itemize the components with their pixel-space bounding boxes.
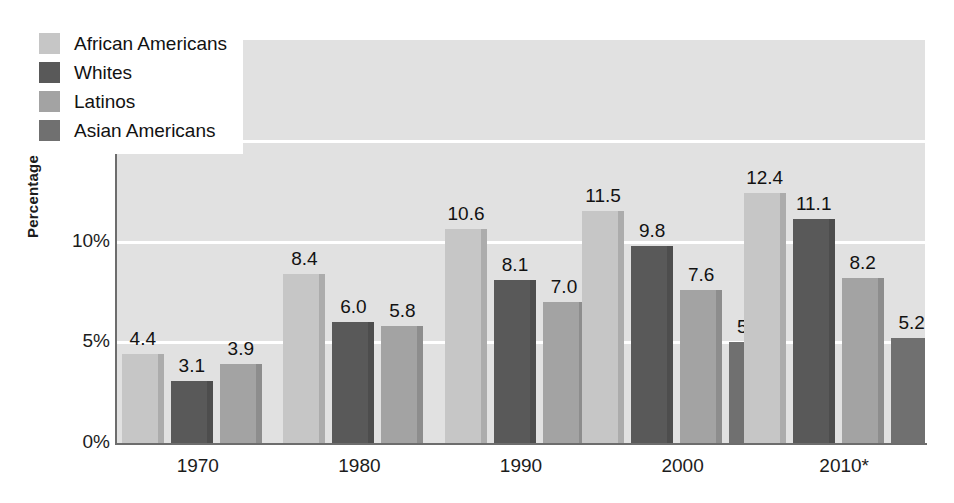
bar[interactable]: 7.6 <box>680 290 722 443</box>
bar[interactable]: 11.5 <box>582 211 624 443</box>
bar-side-shading <box>716 290 722 443</box>
bar[interactable]: 11.1 <box>793 219 835 443</box>
legend-swatch-icon <box>39 120 60 141</box>
legend-item-label: Latinos <box>74 92 135 111</box>
bar-value-label: 3.9 <box>228 338 254 360</box>
legend: African AmericansWhitesLatinosAsian Amer… <box>27 20 243 154</box>
bar-side-shading <box>481 229 487 443</box>
y-axis-tick-label: 0% <box>48 431 110 453</box>
bar-value-label: 11.5 <box>585 185 621 207</box>
bar[interactable]: 6.0 <box>332 322 374 443</box>
bar-value-label: 5.8 <box>389 300 415 322</box>
bar-side-shading <box>878 278 884 443</box>
bar[interactable]: 8.2 <box>842 278 884 443</box>
bar-value-label: 7.0 <box>551 276 577 298</box>
bar[interactable]: 3.1 <box>171 381 213 443</box>
x-axis-tick-label: 2010* <box>819 455 869 477</box>
bar-value-label: 5.2 <box>898 312 924 334</box>
bar[interactable]: 7.0 <box>543 302 585 443</box>
bar[interactable]: 4.4 <box>122 354 164 443</box>
legend-item-label: Whites <box>74 63 132 82</box>
bar-value-label: 8.4 <box>291 248 317 270</box>
bar-fill <box>891 338 925 443</box>
bar-value-label: 6.0 <box>340 296 366 318</box>
x-axis-tick-label: 1970 <box>177 455 219 477</box>
bar[interactable]: 8.4 <box>283 274 325 443</box>
legend-item[interactable]: Latinos <box>39 87 227 116</box>
bar-side-shading <box>368 322 374 443</box>
x-axis-tick-label: 2000 <box>661 455 703 477</box>
x-axis-tick-label: 1980 <box>338 455 380 477</box>
bar-value-label: 9.8 <box>639 220 665 242</box>
bar-side-shading <box>158 354 164 443</box>
bar-value-label: 12.4 <box>746 167 783 189</box>
bar[interactable]: 9.8 <box>631 246 673 443</box>
legend-swatch-icon <box>39 62 60 83</box>
bar[interactable]: 3.9 <box>220 364 262 443</box>
x-axis-tick-label: 1990 <box>500 455 542 477</box>
bar-side-shading <box>667 246 673 443</box>
bar-side-shading <box>618 211 624 443</box>
bar-side-shading <box>417 326 423 443</box>
legend-item-label: African Americans <box>74 34 227 53</box>
legend-swatch-icon <box>39 33 60 54</box>
bar-value-label: 8.1 <box>502 254 528 276</box>
y-axis-tick-label: 5% <box>48 330 110 352</box>
bar-value-label: 10.6 <box>448 203 485 225</box>
bar-side-shading <box>256 364 262 443</box>
bar-side-shading <box>829 219 835 443</box>
legend-swatch-icon <box>39 91 60 112</box>
bar[interactable]: 8.1 <box>494 280 536 443</box>
bar[interactable]: 5.8 <box>381 326 423 443</box>
x-axis-line <box>115 443 927 445</box>
y-axis-tick-label: 10% <box>48 230 110 252</box>
legend-item-label: Asian Americans <box>74 121 216 140</box>
bar-side-shading <box>207 381 213 443</box>
bar-value-label: 7.6 <box>688 264 714 286</box>
bar-value-label: 11.1 <box>796 193 832 215</box>
bar[interactable]: 10.6 <box>445 229 487 443</box>
bar-side-shading <box>780 193 786 443</box>
bar-value-label: 8.2 <box>849 252 875 274</box>
bar-value-label: 3.1 <box>179 355 205 377</box>
bar[interactable]: 12.4 <box>744 193 786 443</box>
bar[interactable]: 5.2 <box>891 338 925 443</box>
legend-item[interactable]: African Americans <box>39 29 227 58</box>
legend-item[interactable]: Asian Americans <box>39 116 227 145</box>
bar-chart: Percentage 0%5%10%15%20% 4.43.13.98.46.0… <box>0 0 954 503</box>
bar-value-label: 4.4 <box>130 328 156 350</box>
legend-item[interactable]: Whites <box>39 58 227 87</box>
bar-side-shading <box>530 280 536 443</box>
bar-side-shading <box>319 274 325 443</box>
